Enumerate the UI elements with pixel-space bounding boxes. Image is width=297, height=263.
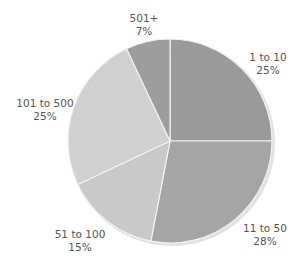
slice-label-category: 501+ <box>130 12 159 25</box>
slice-label: 101 to 50025% <box>16 97 73 123</box>
slice-label-category: 11 to 50 <box>243 222 287 235</box>
slice-label-percent: 25% <box>16 110 73 123</box>
slice-label-category: 1 to 10 <box>249 51 286 64</box>
slice-label-category: 101 to 500 <box>16 97 73 110</box>
slice-label-percent: 28% <box>243 235 287 248</box>
slice-label: 501+7% <box>130 12 159 38</box>
slice-label: 11 to 5028% <box>243 222 287 248</box>
slice-label-percent: 25% <box>249 64 286 77</box>
slice-label-percent: 15% <box>55 241 106 254</box>
slice-label: 51 to 10015% <box>55 228 106 254</box>
slice-label: 1 to 1025% <box>249 51 286 77</box>
slice-label-percent: 7% <box>130 25 159 38</box>
slice-label-category: 51 to 100 <box>55 228 106 241</box>
